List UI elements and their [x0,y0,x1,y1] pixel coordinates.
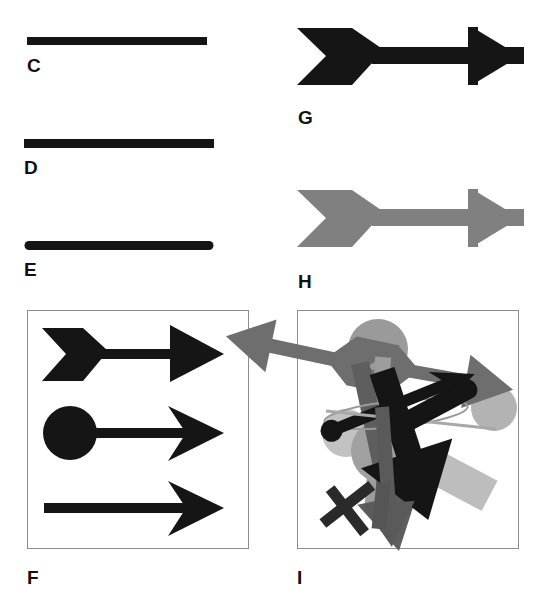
f-arrow1-head [170,325,224,382]
arrow-h-fletching [297,190,384,247]
arrow-g-fletching [297,28,384,85]
panel-h-graphic [272,165,545,285]
panel-label-e: E [24,260,37,279]
panel-label-i: I [297,568,302,587]
bar-c-shape [27,37,207,45]
i-dgray-narrow-head [363,501,418,549]
panel-label-g: G [298,108,313,127]
f-arrow-ball-tail [43,406,224,461]
arrow-g-head [472,27,520,85]
panel-g [272,0,545,120]
arrow-h-head [472,189,520,247]
panel-d-graphic [0,100,272,200]
f-arrow2-shaft [68,428,196,438]
arrow-g-head-base [468,27,478,85]
panel-e-graphic [0,200,272,300]
panel-label-c: C [27,56,41,75]
panel-e [0,200,272,300]
f-arrow3-shaft [44,503,186,513]
f-arrow-plain [44,481,224,536]
panel-label-h: H [298,272,312,291]
panel-f-frame [27,310,249,549]
panel-d [0,100,272,200]
panel-g-graphic [272,0,545,120]
panel-label-d: D [24,158,38,177]
panel-label-f: F [27,568,39,587]
panel-c [0,0,272,100]
bar-d-shape [24,139,214,148]
arrow-h-head-base [468,189,478,247]
panel-i-frame [297,310,519,549]
panel-i-graphic [298,311,518,548]
panel-f-graphic [28,311,248,548]
f-arrow-fletched [42,325,224,382]
figure-root: C D E G H [0,0,545,601]
panel-h [272,165,545,285]
panel-c-graphic [0,0,272,100]
